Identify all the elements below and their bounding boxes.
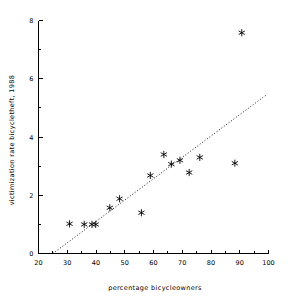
y-tick-label: 8 [29,17,33,25]
x-tick-label: 100 [262,259,274,267]
data-point-marker [116,195,122,202]
y-axis-tick-labels: 02468 [29,17,33,258]
x-tick-label: 70 [178,259,186,267]
data-point-marker [161,151,167,158]
x-tick-label: 40 [92,259,100,267]
data-point-marker [239,29,245,36]
data-point-marker [107,204,113,211]
y-axis-label: victimization rate bicycletheft, 1988 [8,75,16,206]
data-points [66,29,244,228]
x-axis-label: percentage bicycleowners [108,284,202,292]
x-tick-label: 80 [207,259,215,267]
data-point-marker [89,221,95,228]
data-point-marker [186,169,192,176]
regression-line-segment [53,95,267,254]
x-tick-label: 20 [34,259,42,267]
data-point-marker [232,160,238,167]
x-axis-ticks [39,250,269,254]
x-tick-label: 50 [121,259,129,267]
data-point-marker [138,209,144,216]
data-point-marker [93,221,99,228]
data-point-marker [66,220,72,227]
data-point-marker [81,221,87,228]
regression-line [53,95,267,254]
y-tick-label: 2 [29,192,33,200]
x-tick-label: 60 [149,259,157,267]
data-point-marker [147,172,153,179]
data-point-marker [177,157,183,164]
plot-canvas: 2030405060708090100 02468 percentage bic… [0,0,291,298]
y-tick-label: 6 [29,75,33,83]
y-tick-label: 0 [29,250,33,258]
x-axis-tick-labels: 2030405060708090100 [34,259,274,267]
scatter-chart: 2030405060708090100 02468 percentage bic… [0,0,291,298]
axis-lines [39,21,269,254]
data-point-marker [197,154,203,161]
y-tick-label: 4 [29,134,33,142]
y-axis-ticks [39,21,43,254]
x-tick-label: 90 [236,259,244,267]
x-tick-label: 30 [63,259,71,267]
